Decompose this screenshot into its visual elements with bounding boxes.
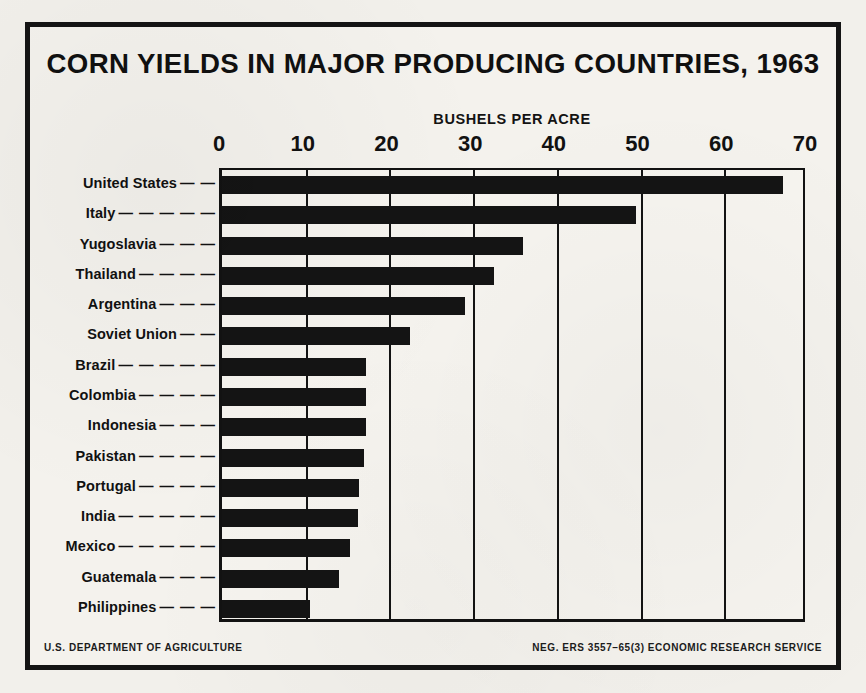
bar xyxy=(222,297,465,315)
category-name: Brazil xyxy=(75,357,115,373)
category-label: Soviet Union— — xyxy=(30,325,216,343)
category-name: United States xyxy=(83,175,177,191)
x-tick-label-0: 0 xyxy=(189,131,249,157)
category-label: Colombia— — — — xyxy=(30,386,216,404)
bar xyxy=(222,176,783,194)
poster-chart: CORN YIELDS IN MAJOR PRODUCING COUNTRIES… xyxy=(0,0,866,693)
category-label: Philippines— — — xyxy=(30,598,216,616)
category-name: Yugoslavia xyxy=(80,236,157,252)
category-label: Portugal— — — — xyxy=(30,477,216,495)
x-tick-label-30: 30 xyxy=(440,131,500,157)
plot-area xyxy=(219,168,805,622)
category-label: India— — — — — xyxy=(30,507,216,525)
category-name: Guatemala xyxy=(81,569,156,585)
footer-credit: NEG. ERS 3557–65(3) ECONOMIC RESEARCH SE… xyxy=(532,642,822,653)
bar xyxy=(222,449,364,467)
x-tick-label-60: 60 xyxy=(691,131,751,157)
category-name: Colombia xyxy=(69,387,136,403)
leader-dashes: — — — — xyxy=(139,448,216,464)
bar-row xyxy=(222,237,803,255)
x-tick-label-50: 50 xyxy=(608,131,668,157)
category-label: Thailand— — — — xyxy=(30,265,216,283)
bar xyxy=(222,539,350,557)
category-name: Soviet Union xyxy=(87,326,177,342)
leader-dashes: — — — xyxy=(159,599,216,615)
category-name: Pakistan xyxy=(75,448,135,464)
leader-dashes: — — — — xyxy=(139,266,216,282)
category-name: Italy xyxy=(86,205,116,221)
bar-row xyxy=(222,570,803,588)
bar-row xyxy=(222,479,803,497)
bar xyxy=(222,327,410,345)
bar xyxy=(222,479,359,497)
leader-dashes: — — — — xyxy=(139,387,216,403)
category-label: Indonesia— — — xyxy=(30,416,216,434)
leader-dashes: — — — — — xyxy=(118,538,216,554)
category-name: Thailand xyxy=(75,266,135,282)
category-label: Yugoslavia— — — xyxy=(30,235,216,253)
leader-dashes: — — — — — xyxy=(118,508,216,524)
footer-agency: U.S. DEPARTMENT OF AGRICULTURE xyxy=(44,642,243,653)
x-tick-label-10: 10 xyxy=(273,131,333,157)
bar xyxy=(222,509,358,527)
category-name: Philippines xyxy=(78,599,156,615)
bar-row xyxy=(222,267,803,285)
page-title: CORN YIELDS IN MAJOR PRODUCING COUNTRIES… xyxy=(42,47,824,80)
bar-row xyxy=(222,418,803,436)
bar-row xyxy=(222,176,803,194)
bar-row xyxy=(222,509,803,527)
x-tick-label-40: 40 xyxy=(524,131,584,157)
bar-row xyxy=(222,600,803,618)
bar-row xyxy=(222,388,803,406)
category-label: Mexico— — — — — xyxy=(30,537,216,555)
category-name: India xyxy=(81,508,115,524)
x-axis-title: BUSHELS PER ACRE xyxy=(219,111,805,127)
leader-dashes: — — — xyxy=(159,569,216,585)
x-tick-label-20: 20 xyxy=(356,131,416,157)
leader-dashes: — — — — xyxy=(139,478,216,494)
category-label: Argentina— — — xyxy=(30,295,216,313)
category-name: Mexico xyxy=(66,538,116,554)
x-tick-label-70: 70 xyxy=(775,131,835,157)
bar xyxy=(222,418,366,436)
bar xyxy=(222,206,636,224)
bar xyxy=(222,388,366,406)
leader-dashes: — — — xyxy=(159,236,216,252)
bar xyxy=(222,570,339,588)
bar xyxy=(222,358,366,376)
category-label: Italy— — — — — xyxy=(30,204,216,222)
bar-row xyxy=(222,539,803,557)
category-label: Pakistan— — — — xyxy=(30,447,216,465)
leader-dashes: — — — — — xyxy=(118,205,216,221)
bar-row xyxy=(222,358,803,376)
chart-frame: CORN YIELDS IN MAJOR PRODUCING COUNTRIES… xyxy=(25,22,841,670)
x-axis-tick-labels: 010203040506070 xyxy=(30,131,846,161)
bar-row xyxy=(222,327,803,345)
leader-dashes: — — — xyxy=(159,417,216,433)
bar-series xyxy=(222,170,803,619)
category-name: Argentina xyxy=(88,296,157,312)
bar-row xyxy=(222,449,803,467)
bar xyxy=(222,237,523,255)
bar-row xyxy=(222,206,803,224)
bar-row xyxy=(222,297,803,315)
bar xyxy=(222,600,310,618)
category-label: Brazil— — — — — xyxy=(30,356,216,374)
category-label-column: United States— —Italy— — — — —Yugoslavia… xyxy=(30,168,219,622)
category-label: Guatemala— — — xyxy=(30,568,216,586)
leader-dashes: — — — xyxy=(159,296,216,312)
leader-dashes: — — xyxy=(180,326,216,342)
leader-dashes: — — xyxy=(180,175,216,191)
leader-dashes: — — — — — xyxy=(118,357,216,373)
category-label: United States— — xyxy=(30,174,216,192)
bar xyxy=(222,267,494,285)
category-name: Indonesia xyxy=(88,417,157,433)
category-name: Portugal xyxy=(76,478,136,494)
